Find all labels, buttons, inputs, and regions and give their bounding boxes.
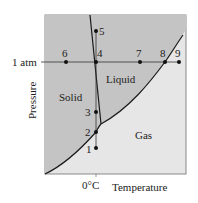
point-1 (94, 146, 98, 150)
point-4 (94, 60, 98, 64)
point-9 (177, 60, 181, 64)
point-label-4: 4 (97, 47, 103, 59)
region-label-solid: Solid (59, 91, 83, 103)
phase-diagram: 5 6 4 7 8 9 3 2 1 Solid Liquid Gas 1 atm… (0, 0, 198, 203)
point-5 (94, 29, 98, 33)
point-label-5: 5 (99, 25, 105, 37)
region-label-gas: Gas (135, 129, 152, 141)
x-axis-label: Temperature (112, 181, 168, 193)
point-label-3: 3 (85, 106, 91, 118)
y-tick-1atm: 1 atm (12, 56, 37, 68)
point-7 (138, 60, 142, 64)
point-label-6: 6 (62, 47, 68, 59)
point-3 (94, 110, 98, 114)
point-label-9: 9 (175, 47, 181, 59)
y-axis-label: Pressure (26, 82, 38, 119)
point-label-2: 2 (85, 126, 91, 138)
point-2 (94, 130, 98, 134)
region-label-liquid: Liquid (106, 73, 136, 85)
point-label-8: 8 (160, 47, 166, 59)
x-tick-0c: 0°C (82, 179, 99, 191)
point-label-7: 7 (136, 47, 142, 59)
point-8 (163, 60, 167, 64)
point-6 (64, 60, 68, 64)
point-label-1: 1 (86, 143, 92, 155)
